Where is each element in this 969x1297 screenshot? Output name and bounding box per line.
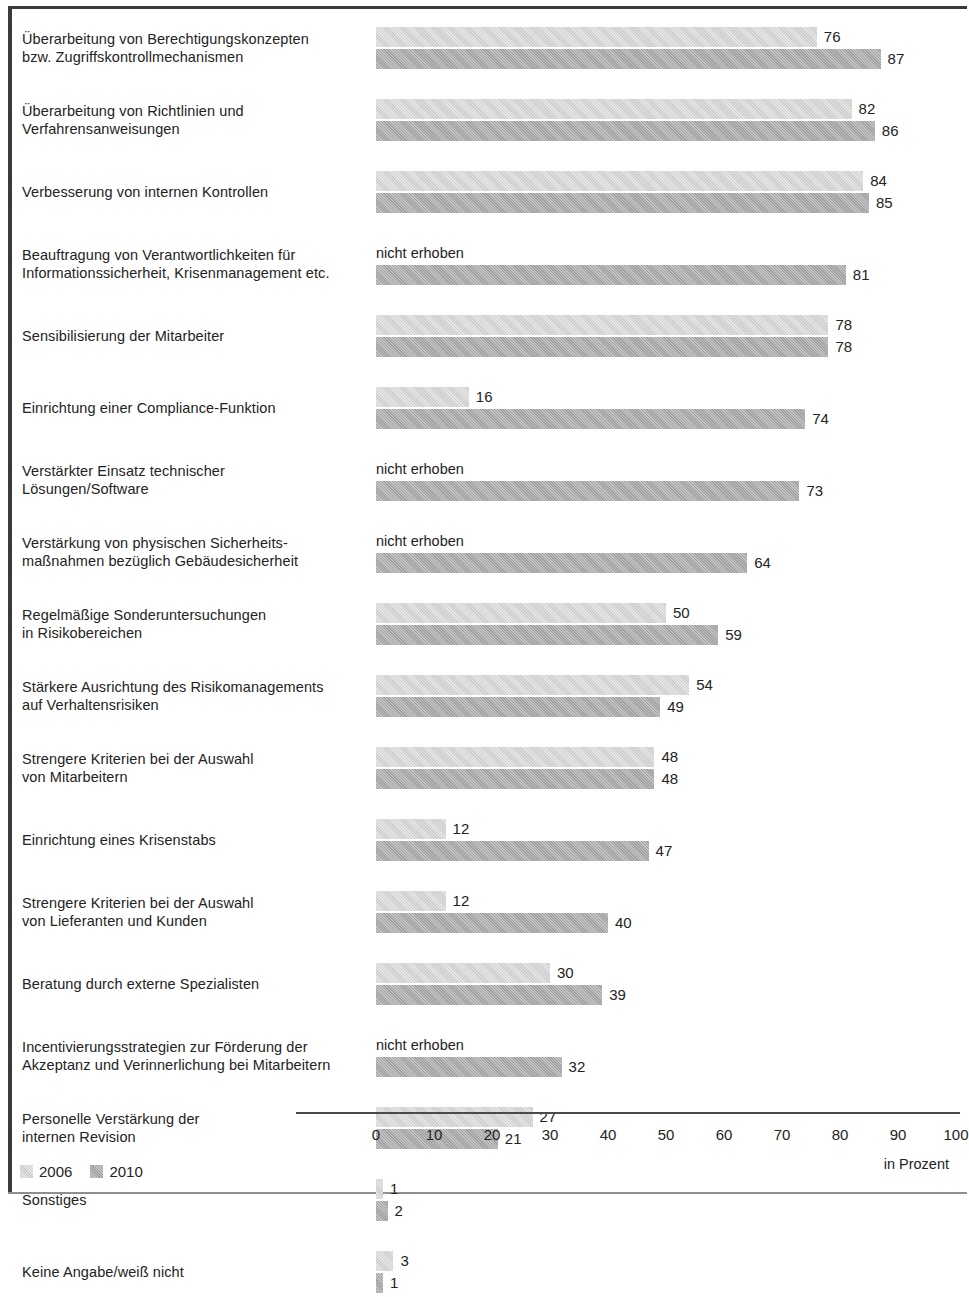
bar-value-label: 84 [863, 172, 887, 189]
bar-group: 8485 [376, 171, 966, 213]
bar-group: 4848 [376, 747, 966, 789]
bar-2010 [376, 553, 747, 573]
bar-row: Beratung durch externe Spezialisten3039 [0, 948, 967, 1020]
bar-row: Stärkere Ausrichtung des Risikomanagemen… [0, 660, 967, 732]
bar-2010 [376, 1201, 388, 1221]
bar-value-label: 85 [869, 194, 893, 211]
bar-value-label: 30 [550, 964, 574, 981]
bar-value-label: 78 [828, 338, 852, 355]
bar-2010 [376, 769, 654, 789]
bar-2010 [376, 121, 875, 141]
category-label: Einrichtung eines Krisenstabs [22, 831, 370, 849]
bar-row: Einrichtung einer Compliance-Funktion167… [0, 372, 967, 444]
category-label: Verstärkung von physischen Sicherheits- … [22, 534, 370, 570]
bar-2006 [376, 603, 666, 623]
bar-slot-2010: 48 [376, 769, 966, 789]
bar-value-label: 81 [846, 266, 870, 283]
bar-value-label: 1 [383, 1180, 398, 1197]
bar-2010 [376, 409, 805, 429]
legend-item-2010: 2010 [90, 1163, 142, 1180]
bar-slot-2010: 49 [376, 697, 966, 717]
not-surveyed-label: nicht erhoben [376, 533, 464, 549]
bar-slot-2010: 39 [376, 985, 966, 1005]
bar-2010 [376, 1273, 383, 1293]
x-axis-unit-label: in Prozent [0, 1156, 957, 1172]
bar-2006 [376, 387, 469, 407]
bar-2006 [376, 675, 689, 695]
bar-group: 1674 [376, 387, 966, 429]
bar-slot-2006: 48 [376, 747, 966, 767]
bar-value-label: 59 [718, 626, 742, 643]
bar-row: Beauftragung von Verantwortlichkeiten fü… [0, 228, 967, 300]
bar-2006 [376, 819, 446, 839]
x-axis-tick-label: 30 [542, 1126, 559, 1143]
bar-slot-2010: 87 [376, 49, 966, 69]
x-axis-tick-label: 0 [372, 1126, 380, 1143]
bar-value-label: 82 [852, 100, 876, 117]
category-label: Strengere Kriterien bei der Auswahl von … [22, 750, 370, 786]
bar-value-label: 32 [562, 1058, 586, 1075]
bar-row: Regelmäßige Sonderuntersuchungen in Risi… [0, 588, 967, 660]
bar-row: Strengere Kriterien bei der Auswahl von … [0, 732, 967, 804]
bar-slot-2010: 59 [376, 625, 966, 645]
bar-group: nicht erhoben81 [376, 243, 966, 285]
bar-value-label: 40 [608, 914, 632, 931]
bar-slot-2006: 30 [376, 963, 966, 983]
bar-2010 [376, 625, 718, 645]
bar-row: Sensibilisierung der Mitarbeiter7878 [0, 300, 967, 372]
not-surveyed-label: nicht erhoben [376, 461, 464, 477]
bar-slot-2006: nicht erhoben [376, 1035, 966, 1055]
bar-slot-2010: 81 [376, 265, 966, 285]
bar-value-label: 1 [383, 1274, 398, 1291]
category-label: Verbesserung von internen Kontrollen [22, 183, 370, 201]
legend-swatch-icon [90, 1165, 103, 1178]
x-axis-tick-label: 70 [774, 1126, 791, 1143]
bar-group: nicht erhoben32 [376, 1035, 966, 1077]
bar-2010 [376, 265, 846, 285]
category-label: Beauftragung von Verantwortlichkeiten fü… [22, 246, 370, 282]
bar-slot-2010: 32 [376, 1057, 966, 1077]
bar-2006 [376, 99, 852, 119]
category-label: Incentivierungsstrategien zur Förderung … [22, 1038, 370, 1074]
bar-2010 [376, 985, 602, 1005]
legend-item-2006: 2006 [20, 1163, 72, 1180]
bar-2006 [376, 747, 654, 767]
bar-value-label: 39 [602, 986, 626, 1003]
bar-slot-2006: 54 [376, 675, 966, 695]
bar-group: 7687 [376, 27, 966, 69]
bar-slot-2006: nicht erhoben [376, 243, 966, 263]
bar-rows-container: Überarbeitung von Berechtigungskonzepten… [0, 12, 967, 1297]
bar-group: 12 [376, 1179, 966, 1221]
bar-value-label: 73 [799, 482, 823, 499]
bar-2010 [376, 697, 660, 717]
bar-slot-2006: 12 [376, 819, 966, 839]
category-label: Stärkere Ausrichtung des Risikomanagemen… [22, 678, 370, 714]
bar-row: Keine Angabe/weiß nicht31 [0, 1236, 967, 1297]
bar-group: 1247 [376, 819, 966, 861]
x-axis-line [296, 1112, 960, 1114]
bar-row: Incentivierungsstrategien zur Förderung … [0, 1020, 967, 1092]
bar-2006 [376, 27, 817, 47]
bar-value-label: 12 [446, 892, 470, 909]
bar-slot-2006: 84 [376, 171, 966, 191]
bar-slot-2010: 2 [376, 1201, 966, 1221]
bar-slot-2006: 82 [376, 99, 966, 119]
bar-2010 [376, 337, 828, 357]
category-label: Keine Angabe/weiß nicht [22, 1263, 370, 1281]
bar-value-label: 48 [654, 748, 678, 765]
bar-row: Überarbeitung von Richtlinien und Verfah… [0, 84, 967, 156]
x-axis-tick-label: 50 [658, 1126, 675, 1143]
bar-slot-2006: 50 [376, 603, 966, 623]
bar-slot-2006: 16 [376, 387, 966, 407]
bar-row: Verstärkung von physischen Sicherheits- … [0, 516, 967, 588]
bar-2010 [376, 193, 869, 213]
bar-2010 [376, 913, 608, 933]
bar-slot-2006: nicht erhoben [376, 531, 966, 551]
legend-label: 2006 [39, 1163, 72, 1180]
bar-row: Einrichtung eines Krisenstabs1247 [0, 804, 967, 876]
bar-slot-2006: nicht erhoben [376, 459, 966, 479]
bar-slot-2006: 76 [376, 27, 966, 47]
bar-2006 [376, 315, 828, 335]
bar-value-label: 87 [881, 50, 905, 67]
